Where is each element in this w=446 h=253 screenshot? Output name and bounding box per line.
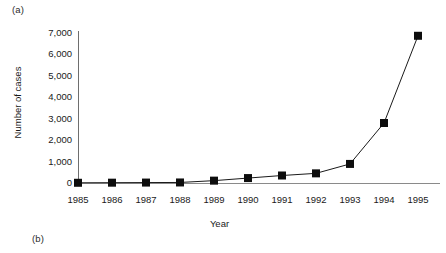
series-line <box>78 36 418 183</box>
data-point-marker <box>380 119 388 127</box>
data-point-marker <box>142 179 150 187</box>
data-point-marker <box>346 160 354 168</box>
data-series-layer <box>0 0 446 253</box>
data-point-marker <box>74 179 82 187</box>
data-point-marker <box>278 172 286 180</box>
panel-label-b: (b) <box>32 233 44 244</box>
data-point-marker <box>108 179 116 187</box>
data-point-marker <box>210 177 218 185</box>
figure-root: (a) 7,0006,0005,0004,0003,0002,0001,0000… <box>0 0 446 253</box>
data-point-marker <box>244 174 252 182</box>
data-point-marker <box>312 169 320 177</box>
data-point-marker <box>414 32 422 40</box>
data-point-marker <box>176 178 184 186</box>
